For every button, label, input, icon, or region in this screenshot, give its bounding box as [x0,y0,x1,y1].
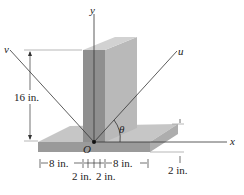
x-axis-label: x [229,135,235,147]
center-right-label: 2 in. [96,170,116,182]
statics-diagram: y x v u O θ 16 in. 8 in. 8 in. 2 in. 2 i… [0,0,244,195]
plate-thickness-label: 2 in. [168,164,188,176]
y-axis-label: y [89,4,95,16]
right-width-label: 8 in. [113,157,133,169]
origin-label: O [83,143,91,155]
origin-point [92,140,96,144]
left-width-label: 8 in. [49,157,69,169]
vertical-wall [83,37,137,142]
theta-label: θ [119,123,125,135]
u-axis-label: u [178,45,184,57]
center-left-label: 2 in. [72,170,92,182]
v-axis-label: v [4,43,9,55]
height-dimension-label: 16 in. [14,91,39,103]
